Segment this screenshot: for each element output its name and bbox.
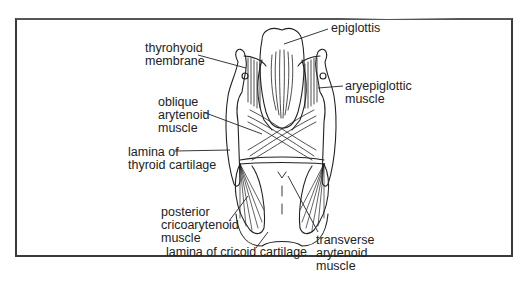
epiglottis-shape	[260, 28, 304, 128]
right-superior-horn	[316, 49, 336, 186]
leader-thyrohyoid	[198, 55, 246, 68]
label-lamina-cricoid-cartilage: lamina of cricoid cartilage	[166, 246, 307, 259]
larynx-diagram	[0, 0, 532, 285]
leader-epiglottis	[284, 29, 328, 44]
label-posterior-cricoarytenoid-muscle: posterior cricoarytenoid muscle	[161, 206, 239, 245]
label-aryepiglottic-muscle: aryepiglottic muscle	[345, 80, 412, 106]
leader-oblique	[203, 112, 262, 134]
left-superior-horn	[226, 49, 246, 186]
label-oblique-arytenoid-muscle: oblique arytenoid muscle	[158, 96, 209, 135]
label-thyrohyoid-membrane: thyrohyoid membrane	[145, 42, 205, 68]
label-lamina-thyroid-cartilage: lamina of thyroid cartilage	[128, 146, 216, 172]
label-epiglottis: epiglottis	[331, 22, 380, 35]
label-transverse-arytenoid-muscle: transverse arytenoid muscle	[316, 234, 374, 273]
right-foramen	[320, 73, 326, 79]
leader-aryepiglottic	[318, 86, 343, 88]
